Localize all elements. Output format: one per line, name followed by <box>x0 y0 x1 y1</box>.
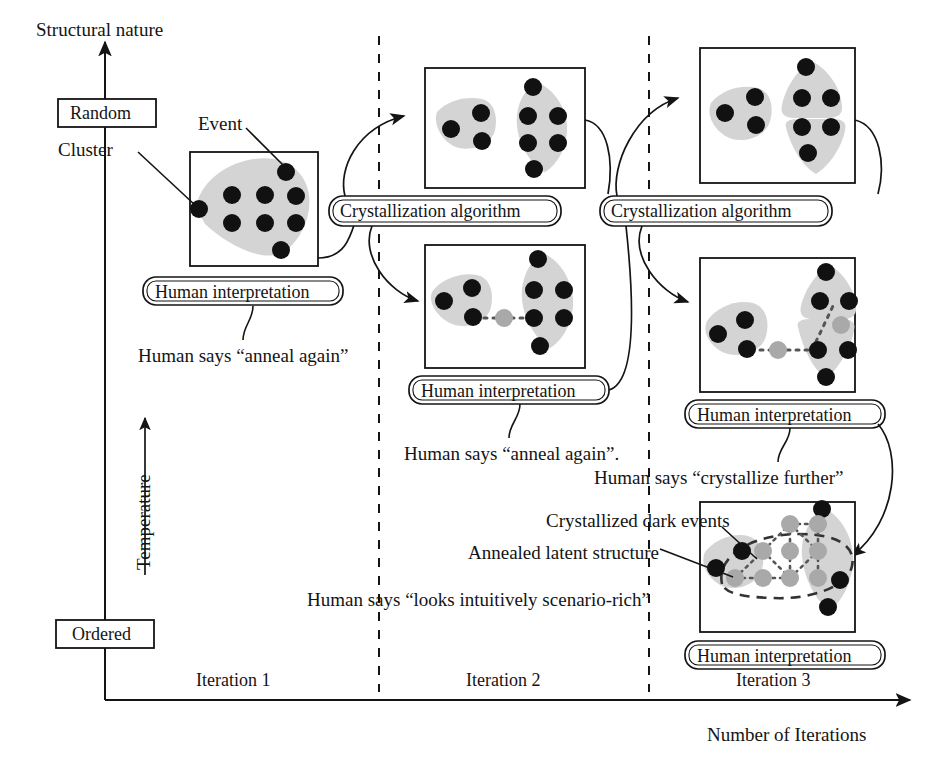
crystallization-algorithm-label-2[interactable]: Crystallization algorithm <box>611 202 791 220</box>
iter2-human-interpretation-label[interactable]: Human interpretation <box>421 382 575 400</box>
human-says-iter1: Human says “anneal again” <box>138 346 349 365</box>
iter3-human-interpretation-label[interactable]: Human interpretation <box>697 406 851 424</box>
crystallization1-to-iter2bottom <box>369 226 418 301</box>
crystallized-dark-events-label: Crystallized dark events <box>546 511 730 530</box>
cluster-callout-label: Cluster <box>58 140 113 159</box>
iter1-says-leader <box>243 306 253 340</box>
cluster-callout-leader <box>138 152 195 205</box>
y-tick-random: Random <box>70 104 131 122</box>
human-says-iter2: Human says “anneal again”. <box>404 444 619 463</box>
temperature-axis-title: Temperature <box>134 474 153 570</box>
iter3-final-human-interpretation-label[interactable]: Human interpretation <box>697 647 851 665</box>
iter1-box-group <box>138 128 318 266</box>
y-tick-ordered: Ordered <box>72 625 131 643</box>
crystallization-algorithm-label-1[interactable]: Crystallization algorithm <box>340 202 520 220</box>
iter2-bottom-light-event <box>495 309 513 327</box>
iter2-to-crystallization2 <box>609 226 632 390</box>
iter3-mid-box-group <box>700 258 858 392</box>
x-tick-iteration-3: Iteration 3 <box>736 671 810 689</box>
x-axis-title: Number of Iterations <box>707 725 866 744</box>
y-axis-title: Structural nature <box>36 20 163 39</box>
annealed-latent-structure-label: Annealed latent structure <box>468 543 659 562</box>
iter2-says-leader <box>509 404 520 438</box>
crystallization2-to-iter3mid <box>639 226 688 302</box>
iter3top-to-nothing <box>855 120 881 194</box>
diagram-canvas: Structural nature Random Ordered Tempera… <box>0 0 938 772</box>
iter3-top-box-group <box>700 48 855 183</box>
iter3mid-to-final <box>852 424 892 556</box>
iter1-to-crystallization-curve <box>318 222 355 258</box>
iter2-bottom-box-group <box>425 245 585 368</box>
x-tick-iteration-1: Iteration 1 <box>196 671 270 689</box>
event-callout-label: Event <box>198 114 242 133</box>
iter2-top-box-group <box>425 68 585 188</box>
human-says-iter3-final: Human says “looks intuitively scenario-r… <box>307 590 650 609</box>
iter1-human-interpretation-label[interactable]: Human interpretation <box>155 283 309 301</box>
human-says-iter3-crystallize: Human says “crystallize further” <box>594 468 844 487</box>
iter3-says-leader <box>778 428 790 462</box>
crystallization1-to-iter2top <box>344 116 404 196</box>
crystallization2-to-iter3top <box>616 98 678 196</box>
iter2top-to-crystallization2 <box>585 120 610 194</box>
x-tick-iteration-2: Iteration 2 <box>466 671 540 689</box>
